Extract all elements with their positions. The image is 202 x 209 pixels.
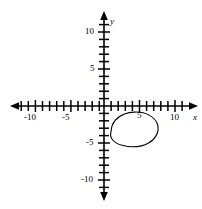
y-axis-label: y	[110, 17, 114, 26]
ellipse-shape	[111, 112, 159, 147]
x-tick-label-neg5: -5	[62, 113, 70, 122]
x-axis-arrow-left-icon	[10, 102, 19, 110]
x-tick-label-neg10: -10	[24, 113, 36, 122]
y-tick-label-5: 5	[90, 64, 95, 73]
y-tick-label-neg10: -10	[81, 175, 93, 184]
x-axis-label: x	[193, 113, 197, 122]
y-tick-label-10: 10	[85, 27, 94, 36]
y-axis-arrow-down-icon	[100, 192, 108, 201]
x-tick-label-5: 5	[137, 111, 142, 120]
y-tick-label-neg5: -5	[86, 138, 94, 147]
plot-canvas	[0, 0, 202, 209]
x-axis-arrow-right-icon	[189, 102, 198, 110]
y-axis-arrow-up-icon	[100, 11, 108, 20]
ellipse-outline	[111, 112, 159, 147]
coordinate-plane-figure: -10 -5 5 10 10 5 -5 -10 y x	[0, 0, 202, 209]
x-tick-label-10: 10	[170, 113, 179, 122]
